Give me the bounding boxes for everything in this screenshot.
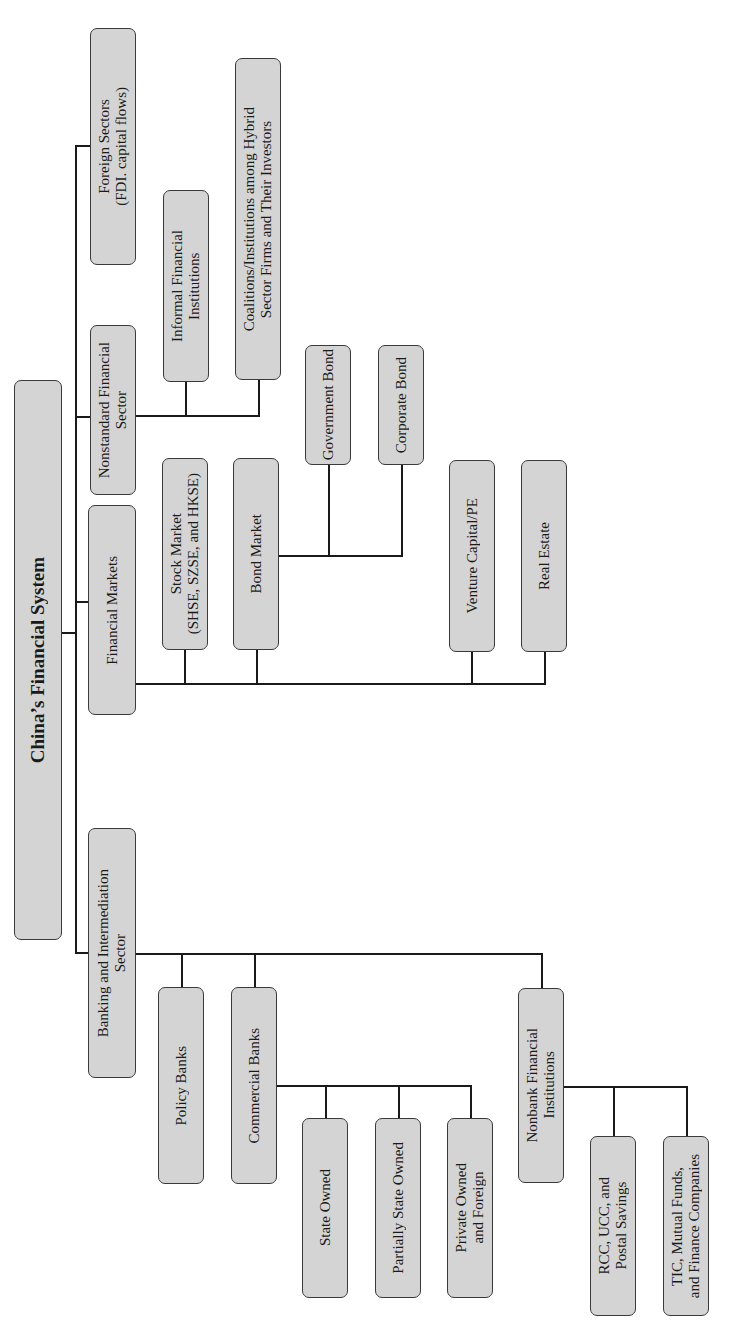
connector-government xyxy=(328,465,330,556)
connector-partial xyxy=(398,1086,400,1118)
connector-foreign xyxy=(75,145,90,147)
node-stock-market-label: Stock Market (SHSE, SZSE, and HKSE) xyxy=(168,473,202,634)
node-government-bond: Government Bond xyxy=(305,345,351,465)
node-tic-mutual-finance: TIC, Mutual Funds, and Finance Companies xyxy=(663,1136,709,1316)
connector-state xyxy=(325,1086,327,1118)
connector-private xyxy=(470,1086,472,1118)
connector-rcc xyxy=(613,1087,615,1136)
connector-main-trunk xyxy=(75,145,77,953)
node-coalitions-label: Coalitions/Institutions among Hybrid Sec… xyxy=(241,107,275,331)
node-banking-sector: Banking and Intermediation Sector xyxy=(88,828,136,1078)
node-stock-market: Stock Market (SHSE, SZSE, and HKSE) xyxy=(162,458,208,650)
connector-banking-bus xyxy=(136,953,542,955)
node-foreign-sectors: Foreign Sectors (FDI. capital flows) xyxy=(90,28,136,265)
node-rcc-ucc-postal: RCC, UCC, and Postal Savings xyxy=(590,1136,636,1316)
node-state-owned: State Owned xyxy=(302,1118,348,1298)
node-venture-capital: Venture Capital/PE xyxy=(449,460,495,652)
node-bond-market: Bond Market xyxy=(233,458,279,650)
connector-markets xyxy=(75,601,88,603)
node-commercial-banks-label: Commercial Banks xyxy=(246,1028,263,1143)
connector-venture xyxy=(471,652,473,684)
node-foreign-sectors-label: Foreign Sectors (FDI. capital flows) xyxy=(96,87,130,206)
node-rcc-ucc-postal-label: RCC, UCC, and Postal Savings xyxy=(596,1177,630,1275)
node-tic-mutual-finance-label: TIC, Mutual Funds, and Finance Companies xyxy=(669,1154,703,1298)
node-root: China’s Financial System xyxy=(14,380,62,940)
node-real-estate-label: Real Estate xyxy=(536,522,553,590)
financial-system-diagram: China’s Financial System Foreign Sectors… xyxy=(0,0,734,1344)
node-corporate-bond: Corporate Bond xyxy=(378,345,424,465)
node-bond-market-label: Bond Market xyxy=(248,514,265,594)
connector-markets-bus xyxy=(136,683,546,685)
node-venture-capital-label: Venture Capital/PE xyxy=(464,498,481,613)
node-government-bond-label: Government Bond xyxy=(320,349,337,460)
connector-informal xyxy=(185,382,187,416)
node-root-label: China’s Financial System xyxy=(27,557,49,763)
connector-commercial-bus xyxy=(277,1085,472,1087)
connector-banking xyxy=(75,952,88,954)
node-private-owned-foreign-label: Private Owned and Foreign xyxy=(453,1163,487,1253)
connector-stock xyxy=(184,650,186,684)
node-informal-institutions-label: Informal Financial Institutions xyxy=(169,230,203,342)
connector-realestate xyxy=(544,652,546,684)
connector-corporate xyxy=(401,465,403,556)
connector-nonbank xyxy=(541,953,543,988)
connector-nonstandard xyxy=(75,416,90,418)
connector-policy xyxy=(181,954,183,987)
node-nonbank-institutions-label: Nonbank Financial Institutions xyxy=(524,1028,558,1143)
node-nonstandard-sector: Nonstandard Financial Sector xyxy=(90,325,136,495)
node-policy-banks: Policy Banks xyxy=(158,987,204,1184)
node-banking-sector-label: Banking and Intermediation Sector xyxy=(95,869,129,1037)
node-state-owned-label: State Owned xyxy=(317,1169,334,1246)
node-corporate-bond-label: Corporate Bond xyxy=(393,357,410,453)
node-nonbank-institutions: Nonbank Financial Institutions xyxy=(518,988,564,1183)
connector-nonbank-bus xyxy=(564,1086,688,1088)
connector-bond-bus xyxy=(279,555,403,557)
node-informal-institutions: Informal Financial Institutions xyxy=(163,190,209,382)
node-financial-markets-label: Financial Markets xyxy=(104,556,121,665)
connector-coalitions xyxy=(258,380,260,416)
node-policy-banks-label: Policy Banks xyxy=(173,1046,190,1126)
connector-bond xyxy=(256,650,258,684)
node-coalitions: Coalitions/Institutions among Hybrid Sec… xyxy=(235,58,281,380)
node-partially-state-owned: Partially State Owned xyxy=(375,1118,421,1298)
node-private-owned-foreign: Private Owned and Foreign xyxy=(447,1118,493,1298)
node-financial-markets: Financial Markets xyxy=(88,505,136,715)
node-commercial-banks: Commercial Banks xyxy=(231,987,277,1184)
node-partially-state-owned-label: Partially State Owned xyxy=(390,1142,407,1274)
connector-tic xyxy=(686,1087,688,1136)
connector-commercial xyxy=(254,954,256,987)
connector-nonstandard-bus xyxy=(136,415,260,417)
node-real-estate: Real Estate xyxy=(521,460,567,652)
connector-root-trunk xyxy=(62,632,76,634)
node-nonstandard-sector-label: Nonstandard Financial Sector xyxy=(96,342,130,478)
